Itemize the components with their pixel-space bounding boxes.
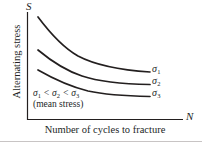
figure-bottom-border <box>0 141 202 142</box>
sigma-subscript-1: 1 <box>38 92 41 99</box>
sn-curve-figure: S N Alternating stress Number of cycles … <box>0 0 202 144</box>
y-axis-symbol: S <box>26 1 32 12</box>
curve-label-sigma-3: σ3 <box>152 88 160 99</box>
plot-area <box>0 0 202 144</box>
mean-stress-annotation: σ1 < σ2 < σ3 (mean stress) <box>33 88 83 110</box>
inequality-operator-2: < <box>60 88 71 98</box>
sigma-inequality: σ1 < σ2 < σ3 <box>33 88 83 99</box>
sigma-subscript-2: 2 <box>57 92 60 99</box>
sigma-subscript: 3 <box>157 92 160 99</box>
x-axis-label: Number of cycles to fracture <box>27 124 183 136</box>
sigma-glyph-1: σ <box>33 88 38 98</box>
y-axis-label: Alternating stress <box>11 10 22 114</box>
x-axis-symbol: N <box>186 111 193 122</box>
mean-stress-note: (mean stress) <box>33 99 83 110</box>
curve-label-sigma-1: σ1 <box>152 64 160 75</box>
sigma-subscript: 2 <box>157 80 160 87</box>
curve-sigma-1 <box>38 17 150 72</box>
curve-label-sigma-2: σ2 <box>152 76 160 87</box>
inequality-operator-1: < <box>41 88 52 98</box>
sigma-subscript: 1 <box>157 68 160 75</box>
sigma-subscript-3: 3 <box>76 92 79 99</box>
curve-group <box>38 17 150 97</box>
